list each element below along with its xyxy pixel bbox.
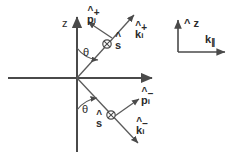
k-minus-sub: i (142, 128, 144, 136)
legend-z-base: ^ z (184, 17, 199, 29)
k-minus-indices: − i (142, 123, 148, 134)
p-plus-base: ^ p (87, 14, 94, 25)
vector-label-k-minus: ^ k − i (136, 123, 148, 136)
legend-k-sub: ∥ (211, 37, 216, 47)
vector-label-k-plus: ^ k + i (135, 27, 147, 40)
k-minus-hat: ^ (136, 117, 142, 127)
p-minus-indices: − i (148, 93, 154, 104)
legend-z-letter: z (194, 17, 200, 29)
s-lower-base: ^ s (96, 118, 102, 129)
p-plus-indices: + i (94, 12, 100, 23)
into-page-marker-lower (107, 111, 115, 119)
s-lower-hat: ^ (96, 110, 102, 120)
k-plus-sub: i (141, 32, 143, 40)
theta-label-lower: θ (82, 104, 88, 115)
k-plus-hat: ^ (135, 21, 141, 31)
z-axis-label: z (62, 18, 68, 29)
legend-label-k-parallel: k∥ (205, 34, 216, 47)
k-plus-indices: + i (141, 27, 147, 38)
vector-label-s-upper: ^ s (115, 40, 121, 51)
legend-label-z-hat: ^ z (184, 18, 199, 29)
p-minus-hat: ^ (141, 87, 147, 97)
p-minus-sub: i (148, 98, 150, 106)
vector-label-p-minus: ^ p − i (141, 93, 154, 106)
figure-canvas: z θ θ ^ p + i ^ k + i ^ s ^ p (0, 0, 243, 156)
vector-label-s-lower: ^ s (96, 118, 102, 129)
theta-label-upper: θ (83, 47, 89, 58)
arrow-p-minus (112, 99, 139, 118)
legend-z-hat: ^ (184, 17, 190, 29)
p-plus-hat: ^ (87, 6, 93, 16)
p-minus-base: ^ p (141, 95, 148, 106)
into-page-marker-upper (103, 40, 111, 48)
diagram-svg (0, 0, 243, 156)
p-plus-sub: i (94, 17, 96, 25)
s-upper-hat: ^ (115, 32, 121, 42)
vector-label-p-plus: ^ p + i (87, 12, 100, 25)
s-upper-base: ^ s (115, 40, 121, 51)
